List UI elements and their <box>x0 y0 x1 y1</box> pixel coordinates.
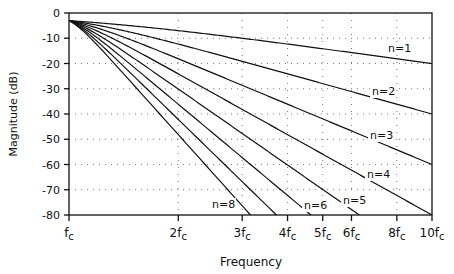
curve-label: n=8 <box>212 198 235 211</box>
y-tick-label: -10 <box>42 32 60 45</box>
response-curves <box>69 21 432 217</box>
x-tick-label: 5fc <box>314 226 331 242</box>
curve-n2 <box>69 21 432 114</box>
curve-n4 <box>69 21 432 215</box>
y-axis: 0-10-20-30-40-50-60-70-80 <box>42 7 69 222</box>
curve-label: n=1 <box>388 42 411 55</box>
x-tick-label: 6fc <box>343 226 360 242</box>
x-tick-label: 2fc <box>170 226 187 242</box>
curve-label: n=6 <box>304 199 327 212</box>
x-tick-label: 10fc <box>420 226 445 242</box>
y-tick-label: -30 <box>42 83 60 96</box>
x-tick-label: fc <box>64 226 74 242</box>
curve-label: n=4 <box>367 168 390 181</box>
x-tick-label: 3fc <box>234 226 251 242</box>
y-tick-label: 0 <box>53 7 60 20</box>
curve-n6 <box>69 21 312 216</box>
y-tick-label: -40 <box>42 108 60 121</box>
curve-label: n=2 <box>372 85 395 98</box>
x-tick-label: 4fc <box>279 226 296 242</box>
x-tick-label: 8fc <box>388 226 405 242</box>
y-tick-label: -80 <box>42 209 60 222</box>
y-tick-label: -60 <box>42 159 60 172</box>
x-axis: fc2fc3fc4fc5fc6fc8fc10fc <box>64 215 444 242</box>
y-tick-label: -50 <box>42 133 60 146</box>
y-tick-label: -70 <box>42 184 60 197</box>
curve-n7 <box>69 21 278 217</box>
y-axis-title: Magnitude (dB) <box>7 72 20 157</box>
butterworth-magnitude-chart: 0-10-20-30-40-50-60-70-80 fc2fc3fc4fc5fc… <box>0 0 454 274</box>
x-axis-title: Frequency <box>220 255 282 269</box>
curve-label: n=3 <box>370 129 393 142</box>
curve-label: n=5 <box>343 194 366 207</box>
y-tick-label: -20 <box>42 58 60 71</box>
curve-n1 <box>69 21 432 64</box>
curve-n8 <box>69 21 251 215</box>
